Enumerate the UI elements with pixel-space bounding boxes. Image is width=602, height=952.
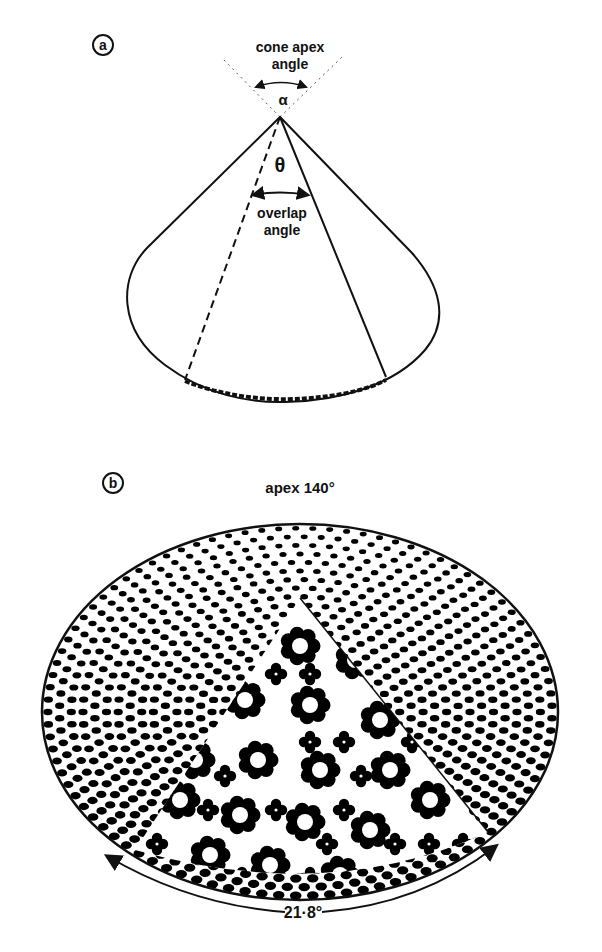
overlap-label-line1: overlap <box>257 205 307 221</box>
cone-seam-dashed <box>185 117 280 380</box>
panel-a-label: a <box>93 35 113 55</box>
overlap-angle-arrow <box>253 193 308 196</box>
theta-symbol: θ <box>275 154 286 176</box>
cone-apex-label-line1: cone apex <box>256 39 325 55</box>
overlap-edge <box>280 117 386 377</box>
cone-apex-label-line2: angle <box>272 56 309 72</box>
panel-a-letter: a <box>99 37 107 53</box>
panel-b-label: b <box>103 473 123 493</box>
panel-a: a cone apex angle α θ overlap angle <box>93 35 439 402</box>
panel-b: b apex 140° 21·8° <box>0 473 602 940</box>
alpha-symbol: α <box>278 91 288 108</box>
arc-angle-label: 21·8° <box>284 904 322 921</box>
apex-140-title: apex 140° <box>265 479 334 496</box>
overlap-label-line2: angle <box>264 222 301 238</box>
panel-b-letter: b <box>109 475 118 491</box>
overlap-base-dashed <box>185 380 386 399</box>
cone-diagram-figure: a cone apex angle α θ overlap angle b ap… <box>0 0 602 952</box>
figure-canvas: a cone apex angle α θ overlap angle b ap… <box>0 0 602 952</box>
apex-angle-arrow <box>256 83 306 88</box>
